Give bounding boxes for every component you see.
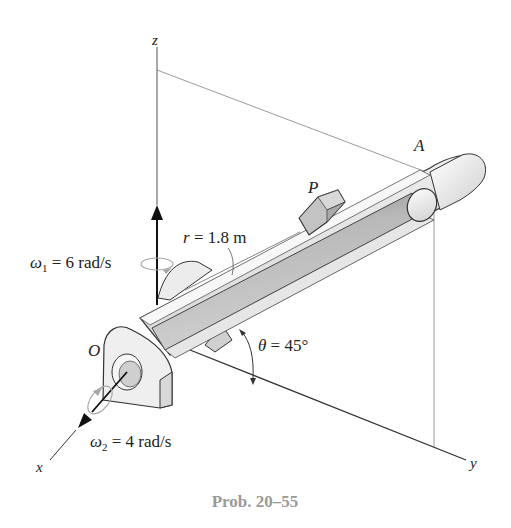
y-axis <box>190 350 466 460</box>
omega2-arrow-icon <box>78 413 92 428</box>
mechanics-diagram: z y x A O P ω1 = 6 rad/s r = 1.8 m θ = 4… <box>0 0 511 528</box>
theta-label: θ = 45° <box>258 336 308 355</box>
omega1-arrow-icon <box>151 205 163 220</box>
block-p-label: P <box>307 178 318 197</box>
omega2-label: ω2 = 4 rad/s <box>90 432 171 453</box>
y-axis-label: y <box>468 455 477 471</box>
problem-caption: Prob. 20–55 <box>212 492 299 511</box>
z-axis <box>151 47 163 305</box>
theta-arc <box>239 329 256 385</box>
omega1-label: ω1 = 6 rad/s <box>30 253 111 274</box>
x-axis-label: x <box>35 459 43 475</box>
r-label: r = 1.8 m <box>183 228 246 247</box>
point-o-label: O <box>88 341 100 360</box>
z-to-a-guide <box>157 70 434 175</box>
point-a-label: A <box>413 136 425 155</box>
z-axis-label: z <box>151 32 158 48</box>
